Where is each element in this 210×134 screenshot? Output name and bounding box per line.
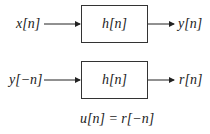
row2-system-block: h[n]: [81, 61, 148, 99]
equation-label: u[n] = r[−n]: [80, 111, 154, 127]
row2-system-label: h[n]: [82, 72, 147, 88]
row1-input-label: x[n]: [16, 16, 40, 32]
row1-output-label: y[n]: [178, 16, 202, 32]
row2-input-label: y[−n]: [9, 72, 43, 88]
row1-system-block: h[n]: [81, 5, 148, 43]
row2-output-label: r[n]: [179, 72, 202, 88]
row1-system-label: h[n]: [82, 16, 147, 32]
